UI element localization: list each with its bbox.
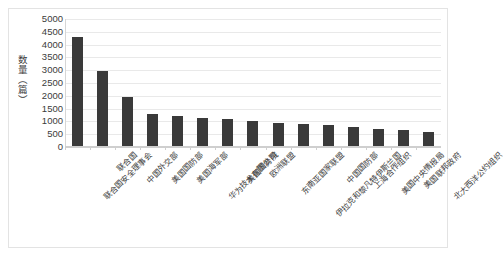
y-tick-label: 2000 [29, 91, 63, 101]
bar-slot [391, 19, 416, 147]
bar-slot [190, 19, 215, 147]
y-tick-label: 1000 [29, 117, 63, 127]
bar[interactable] [147, 114, 158, 147]
bar-slot [416, 19, 441, 147]
bar[interactable] [348, 127, 359, 147]
y-tick-label: 5000 [29, 14, 63, 24]
chart-frame: 数量（篇） 5000450040003500300025002000150010… [8, 8, 448, 248]
x-tick-label: 北大西洋公约组织 [453, 151, 504, 202]
bar[interactable] [197, 118, 208, 147]
bar[interactable] [97, 71, 108, 147]
y-axis-title-label: 数量（篇） [17, 55, 27, 105]
bar[interactable] [222, 119, 233, 147]
bar-slot [140, 19, 165, 147]
bar[interactable] [323, 125, 334, 147]
y-tick-label: 2500 [29, 78, 63, 88]
bar[interactable] [373, 129, 384, 147]
x-axis-line [65, 146, 441, 147]
bar-slot [316, 19, 341, 147]
bar-slot [341, 19, 366, 147]
y-tick-label: 4500 [29, 27, 63, 37]
bar-series [65, 19, 441, 147]
bar-slot [291, 19, 316, 147]
bar[interactable] [298, 124, 309, 147]
bar[interactable] [72, 37, 83, 147]
bar[interactable] [172, 116, 183, 147]
y-tick-label: 3500 [29, 53, 63, 63]
bar[interactable] [122, 97, 133, 147]
bar[interactable] [247, 121, 258, 147]
gridline [65, 147, 441, 148]
bar[interactable] [398, 130, 409, 147]
bar-slot [240, 19, 265, 147]
bar-slot [65, 19, 90, 147]
y-tick-label: 1500 [29, 104, 63, 114]
y-axis-tick-labels: 5000450040003500300025002000150010005000 [29, 15, 63, 147]
bar[interactable] [273, 123, 284, 147]
x-tick-label: 东南亚国家联盟 [300, 151, 345, 196]
y-tick-label: 0 [29, 142, 63, 152]
bar-slot [266, 19, 291, 147]
bar-slot [90, 19, 115, 147]
bar-slot [115, 19, 140, 147]
y-tick-label: 4000 [29, 40, 63, 50]
x-axis-tick-labels: 联合国安全理事会联合国中国外交部美国国防部美国海军部华为技术有限公司美国国务院欧… [65, 149, 441, 249]
plot-area [65, 19, 441, 147]
bar-slot [165, 19, 190, 147]
y-tick-label: 3000 [29, 65, 63, 75]
y-tick-label: 500 [29, 129, 63, 139]
bar[interactable] [423, 132, 434, 147]
bar-slot [366, 19, 391, 147]
bar-slot [215, 19, 240, 147]
